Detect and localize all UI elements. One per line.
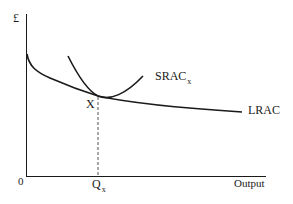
x-axis-label: Output <box>234 178 265 189</box>
srac-curve <box>68 56 143 98</box>
qx-label: Qx <box>92 178 106 190</box>
lrac-curve <box>27 54 242 112</box>
y-axis-label: £ <box>13 12 19 24</box>
lrac-label: LRAC <box>248 104 280 116</box>
point-x-label: X <box>86 98 95 110</box>
srac-label: SRACx <box>155 70 191 82</box>
origin-label: 0 <box>18 176 24 187</box>
cost-diagram <box>0 0 293 204</box>
